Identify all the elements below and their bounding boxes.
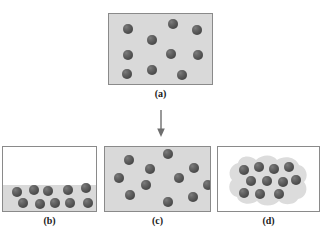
- figure-container: (a) (b) (c) (d): [0, 0, 322, 235]
- particle-sphere: [166, 49, 176, 59]
- panel-c: [104, 146, 211, 212]
- panel-d-label: (d): [217, 215, 320, 226]
- particle-sphere: [141, 180, 151, 190]
- particle-sphere: [203, 180, 211, 190]
- particle-sphere: [192, 25, 202, 35]
- particle-sphere: [145, 164, 155, 174]
- particle-sphere: [174, 173, 184, 183]
- particle-sphere: [124, 155, 134, 165]
- particle-sphere: [114, 173, 124, 183]
- down-arrow-icon: [154, 110, 168, 137]
- panel-b: [2, 146, 97, 212]
- panel-a-label: (a): [108, 88, 213, 99]
- particle-sphere: [125, 190, 135, 200]
- particle-sphere: [123, 24, 133, 34]
- particle-sphere: [193, 50, 203, 60]
- panel-c-label: (c): [104, 215, 211, 226]
- particle-sphere: [177, 70, 187, 80]
- particle-sphere: [163, 149, 173, 159]
- panel-b-label: (b): [2, 215, 97, 226]
- particle-sphere: [147, 35, 157, 45]
- particle-sphere: [188, 192, 198, 202]
- particle-sphere: [123, 50, 133, 60]
- particle-sphere: [122, 69, 132, 79]
- panel-d: [217, 146, 320, 212]
- particle-sphere: [147, 65, 157, 75]
- particle-sphere: [189, 163, 199, 173]
- particle-sphere: [163, 197, 173, 207]
- particle-sphere: [168, 19, 178, 29]
- panel-a: [108, 13, 213, 85]
- down-arrow: [154, 110, 168, 141]
